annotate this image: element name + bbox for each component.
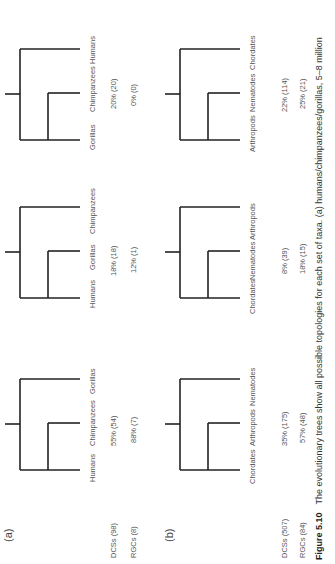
tree-b1-rgc-value: 57% (48) [298, 413, 307, 443]
tree-a1-taxon-1: Humans [88, 454, 97, 482]
tree-b1-taxon-2: Arthropods [248, 409, 257, 446]
tree-a3-rgc-value: 0% (0) [129, 84, 138, 106]
tree-b1-dcs-value: 35% (175) [280, 411, 289, 446]
tree-a2-taxon-2: Gorillas [88, 245, 97, 270]
tree-a3-diagram [0, 14, 90, 154]
tree-b2-taxon-2: Nematodes [248, 242, 257, 280]
tree-a1-rgc-value: 88% (7) [129, 417, 138, 443]
tree-a2-rgc-value: 12% (1) [129, 247, 138, 273]
caption-label: Figure 5.10 [314, 512, 324, 560]
tree-b3-rgc-value: 25% (21) [298, 79, 307, 109]
tree-a3-taxon-1: Gorillas [88, 125, 97, 150]
panel-b-dcs-label: DCSs (507) [280, 519, 289, 558]
tree-b2-rgc-value: 18% (15) [298, 244, 307, 274]
tree-b2-taxon-1: Chordates [248, 279, 257, 314]
tree-a1-taxon-3: Gorillas [88, 369, 97, 394]
tree-a3-taxon-3: Humans [88, 36, 97, 64]
panel-b-label: (b) [163, 529, 175, 542]
tree-a1-dcs-value: 55% (54) [109, 416, 118, 446]
tree-a1-taxon-2: Chimpanzees [88, 400, 97, 446]
tree-b2-diagram [160, 172, 250, 312]
tree-b3-taxon-2: Nematodes [248, 74, 257, 112]
tree-b3-dcs-value: 22% (114) [280, 78, 289, 112]
tree-a1-diagram [0, 344, 90, 484]
panel-a-rgc-label: RGCs (8) [129, 526, 138, 558]
tree-b1-taxon-3: Nematodes [248, 368, 257, 406]
tree-a3-dcs-value: 20% (20) [109, 79, 118, 109]
tree-a2-taxon-3: Chimpanzees [88, 188, 97, 234]
tree-a2-dcs-value: 18% (18) [109, 246, 118, 276]
panel-a-label: (a) [2, 529, 14, 542]
panel-a-dcs-label: DCSs (98) [109, 523, 118, 558]
figure-caption: Figure 5.10The evolutionary trees show a… [314, 37, 324, 560]
tree-a2-diagram [0, 172, 90, 312]
tree-b2-dcs-value: 8% (39) [280, 248, 289, 274]
tree-b2-taxon-3: Arthropods [248, 203, 257, 240]
tree-b3-diagram [160, 14, 250, 154]
caption-text: The evolutionary trees show all possible… [314, 37, 324, 504]
tree-a3-taxon-2: Chimpanzees [88, 66, 97, 112]
tree-a2-taxon-1: Humans [88, 280, 97, 308]
tree-b1-taxon-1: Chordates [248, 449, 257, 484]
rotated-figure-page: (a) Humans Chimpanzees Gorillas DCSs (98… [0, 0, 335, 564]
panel-b-rgc-label: RGCs (84) [298, 522, 307, 558]
tree-b1-diagram [160, 344, 250, 484]
tree-b3-taxon-1: Arthropods [248, 115, 257, 152]
tree-b3-taxon-3: Chordates [248, 35, 257, 70]
